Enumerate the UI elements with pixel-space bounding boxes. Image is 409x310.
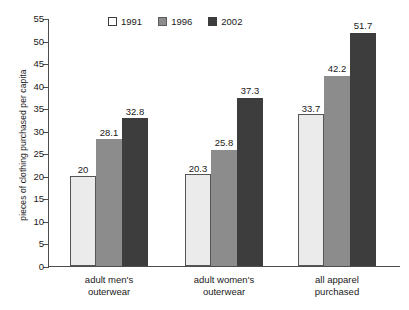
category-label-line: outerwear [49, 286, 169, 298]
bar-1991-2[interactable]: 20.3 [185, 174, 211, 266]
bar-1996-2[interactable]: 25.8 [211, 150, 237, 266]
y-axis-title: pieces of clothing purchased per capita [18, 30, 28, 260]
category-label-2: adult women'souterwear [164, 274, 284, 298]
y-tick-label: 30 [33, 127, 44, 137]
bar-value-label: 25.8 [215, 138, 234, 148]
bar-value-label: 20 [78, 165, 89, 175]
y-tick-label: 25 [33, 150, 44, 160]
bar-1996-1[interactable]: 28.1 [96, 139, 122, 266]
y-tick-label: 50 [33, 37, 44, 47]
bar-value-label: 20.3 [189, 164, 208, 174]
y-tick-label: 20 [33, 172, 44, 182]
category-label-line: purchased [277, 286, 397, 298]
y-tick-label: 0 [39, 262, 44, 272]
plot-area: 0510152025303540455055 2020.333.728.125.… [48, 19, 400, 267]
y-axis-line [48, 19, 49, 268]
category-label-line: adult men's [49, 274, 169, 286]
bar-1991-1[interactable]: 20 [70, 176, 96, 266]
bar-value-label: 37.3 [241, 86, 260, 96]
x-axis-line [48, 266, 400, 267]
y-tick-label: 15 [33, 195, 44, 205]
bar-2002-2[interactable]: 37.3 [237, 98, 263, 266]
category-label-line: adult women's [164, 274, 284, 286]
bar-value-label: 51.7 [354, 21, 373, 31]
category-label-1: adult men'souterwear [49, 274, 169, 298]
bar-1991-3[interactable]: 33.7 [298, 114, 324, 266]
y-tick-label: 5 [39, 240, 44, 250]
category-label-3: all apparelpurchased [277, 274, 397, 298]
category-label-line: all apparel [277, 274, 397, 286]
bar-value-label: 32.8 [126, 107, 145, 117]
y-tick-label: 45 [33, 59, 44, 69]
bar-value-label: 33.7 [302, 104, 321, 114]
y-tick-label: 55 [33, 14, 44, 24]
bar-1996-3[interactable]: 42.2 [324, 76, 350, 266]
y-tick-label: 10 [33, 217, 44, 227]
bar-value-label: 42.2 [328, 64, 347, 74]
bar-2002-3[interactable]: 51.7 [350, 33, 376, 266]
y-tick-label: 40 [33, 82, 44, 92]
bar-value-label: 28.1 [100, 128, 119, 138]
category-label-line: outerwear [164, 286, 284, 298]
y-tick-label: 35 [33, 104, 44, 114]
bar-chart: pieces of clothing purchased per capita … [0, 0, 409, 310]
bar-2002-1[interactable]: 32.8 [122, 118, 148, 266]
